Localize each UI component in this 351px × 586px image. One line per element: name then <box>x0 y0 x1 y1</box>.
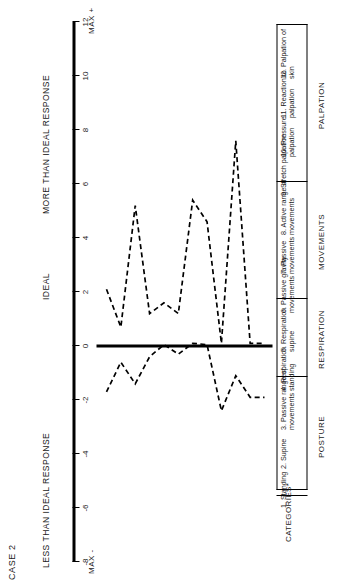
axis-tick-label: 12 <box>80 18 89 27</box>
series-less-than-ideal <box>106 343 264 411</box>
axis-tick-label: 4 <box>80 236 89 240</box>
axis-tick-label: -4 <box>80 450 89 457</box>
axis-tick <box>72 237 79 238</box>
plot-svg <box>96 0 272 586</box>
category-group-label: MOVEMENTS <box>316 214 325 270</box>
axis-tick-label: 10 <box>80 72 89 81</box>
axis-tick <box>72 345 79 346</box>
axis-tick-label: -6 <box>80 504 89 511</box>
category-group-label: PALPATION <box>316 82 325 130</box>
axis-tick-label: -8 <box>80 558 89 565</box>
value-axis: LESS THAN IDEAL RESPONSE IDEAL MORE THAN… <box>42 0 102 586</box>
axis-label-ideal: IDEAL <box>40 273 50 300</box>
category-item: 12. Palpation of skin <box>279 15 296 79</box>
axis-tick-label: 2 <box>80 290 89 294</box>
axis-tick-label: -2 <box>80 396 89 403</box>
categories-rail-bottom <box>306 24 307 490</box>
category-group-separator <box>276 376 307 377</box>
category-group-separator <box>276 181 307 182</box>
category-group-separator <box>276 298 307 299</box>
plot-area <box>96 0 272 586</box>
case-label: CASE 2 <box>6 544 16 580</box>
axis-tick <box>72 561 79 562</box>
axis-tick <box>72 183 79 184</box>
axis-tick <box>72 291 79 292</box>
axis-tick-label: 8 <box>80 128 89 132</box>
axis-tick <box>72 21 79 22</box>
axis-tick <box>72 507 79 508</box>
axis-tick <box>72 399 79 400</box>
axis-tick-label: 6 <box>80 182 89 186</box>
categories-rail-top <box>276 24 277 490</box>
category-group-label: POSTURE <box>316 416 325 458</box>
series-more-than-ideal <box>106 141 264 344</box>
axis-tick-label: 0 <box>80 344 89 348</box>
category-group-label: RESPIRATION <box>316 310 325 369</box>
axis-tick <box>72 129 79 130</box>
axis-label-less-than-ideal: LESS THAN IDEAL RESPONSE <box>40 433 50 568</box>
axis-tick <box>72 453 79 454</box>
axis-label-more-than-ideal: MORE THAN IDEAL RESPONSE <box>40 75 50 214</box>
chart-figure: CASE 2 LESS THAN IDEAL RESPONSE IDEAL MO… <box>0 0 351 586</box>
axis-line <box>72 22 75 562</box>
axis-tick <box>72 75 79 76</box>
categories-block: CATEGORIES* 1. Standing2. Supine3. Passi… <box>276 20 348 490</box>
